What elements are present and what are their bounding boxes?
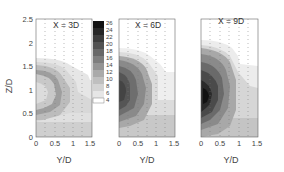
panel-title: X = 9D [218,16,244,26]
x-axis-label: Y/D [56,155,72,165]
svg-text:26: 26 [106,20,113,26]
contour-fill [36,58,92,137]
svg-text:0: 0 [199,139,203,148]
svg-text:1.5: 1.5 [252,139,262,148]
svg-text:20: 20 [106,41,113,47]
x-tick-labels: 0 0.5 1 1.5 [199,139,262,148]
x-tick-labels: 0 0.5 1 1.5 [117,139,179,148]
svg-text:0.5: 0.5 [133,139,143,148]
svg-text:1.5: 1.5 [169,139,179,148]
panel-x6d: X = 6D 0 0.5 1 1.5 Y/D [117,19,179,165]
x-axis-label: Y/D [139,155,155,165]
svg-text:0.5: 0.5 [50,139,60,148]
svg-text:1: 1 [154,139,158,148]
svg-text:8: 8 [106,83,110,89]
svg-text:12: 12 [106,69,113,75]
panel-x3d: X = 3D 0 0.5 1 1.5 Y/D [34,19,95,165]
svg-text:2.5: 2.5 [23,15,33,24]
svg-text:0.5: 0.5 [23,109,33,118]
svg-text:2: 2 [29,39,33,48]
colorbar: 26 24 22 20 18 16 14 12 10 8 6 4 [93,20,113,103]
x-axis-label: Y/D [223,155,239,165]
y-tick-labels: 2.5 2 1.5 1 0.5 0 [23,15,33,142]
svg-text:14: 14 [106,62,113,68]
svg-text:24: 24 [106,27,113,33]
svg-text:0: 0 [117,139,121,148]
svg-text:18: 18 [106,48,113,54]
svg-text:16: 16 [106,55,113,61]
contour-fill [201,40,258,137]
svg-text:1: 1 [237,139,241,148]
svg-text:22: 22 [106,34,113,40]
svg-text:4: 4 [106,97,110,103]
svg-text:0: 0 [34,139,38,148]
panel-title: X = 6D [135,20,161,30]
svg-text:0: 0 [29,133,33,142]
svg-text:1: 1 [71,139,75,148]
x-tick-labels: 0 0.5 1 1.5 [34,139,95,148]
svg-text:1: 1 [29,86,33,95]
svg-text:1.5: 1.5 [23,62,33,71]
svg-text:6: 6 [106,90,110,96]
svg-text:10: 10 [106,76,113,82]
svg-text:1.5: 1.5 [85,139,95,148]
panel-title: X = 3D [53,20,79,30]
y-axis-label: Z/D [4,78,14,93]
svg-text:0.5: 0.5 [215,139,225,148]
contour-figure: Z/D 2.5 2 1.5 1 0.5 0 X = 3D 0 0.5 [0,0,284,172]
panel-x9d: X = 9D 0 0.5 1 1.5 Y/D [199,16,262,165]
